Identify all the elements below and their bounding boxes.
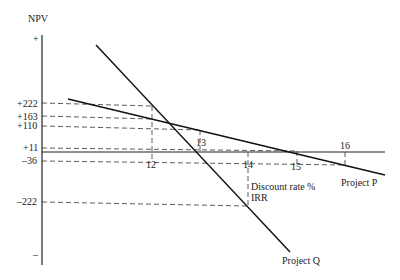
project-q-line <box>96 45 290 252</box>
ref-line-163 <box>42 116 152 119</box>
x-tick-13: 13 <box>196 137 206 148</box>
x-tick-15: 15 <box>291 161 301 172</box>
y-tick-110: +110 <box>17 120 37 131</box>
x-tick-16: 16 <box>340 140 350 151</box>
ref-line-minus222 <box>42 202 248 206</box>
project-p-label: Project P <box>341 177 378 188</box>
y-tick-minus222: –222 <box>16 196 37 207</box>
irr-label: IRR <box>251 192 268 203</box>
y-minus-marker: – <box>32 249 39 260</box>
ref-line-11 <box>42 148 297 151</box>
y-axis-title: NPV <box>28 13 49 24</box>
discount-rate-label: Discount rate % <box>251 181 315 192</box>
y-tick-11: +11 <box>23 142 38 153</box>
npv-chart: NPV + – +222 +163 +110 +11 –36 –222 12 1… <box>0 0 400 280</box>
y-tick-222: +222 <box>17 98 38 109</box>
x-tick-12: 12 <box>146 159 156 170</box>
project-q-label: Project Q <box>282 255 321 266</box>
x-tick-14: 14 <box>243 159 253 170</box>
ref-line-110 <box>42 126 200 130</box>
y-plus-marker: + <box>33 33 39 44</box>
y-tick-minus36: –36 <box>21 155 37 166</box>
